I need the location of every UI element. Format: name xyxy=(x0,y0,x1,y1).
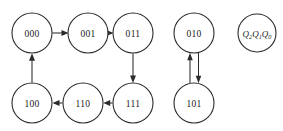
arrowhead-left-icon xyxy=(103,100,110,106)
nodes-layer: 000 001 011 100 110 111 xyxy=(12,13,276,123)
edge-110-to-100 xyxy=(53,100,63,106)
state-label: 101 xyxy=(186,99,201,109)
legend-node-state-encoding: Q2Q1Q0 xyxy=(238,14,276,52)
arrowhead-left-icon xyxy=(53,100,60,106)
legend-label: Q2Q1Q0 xyxy=(243,29,273,40)
state-diagram: 000 001 011 100 110 111 xyxy=(0,0,283,131)
state-label: 111 xyxy=(126,99,140,109)
arrowhead-up-icon xyxy=(187,53,193,61)
state-node-100[interactable]: 100 xyxy=(12,83,52,123)
arrowhead-down-icon xyxy=(196,76,202,84)
state-node-011[interactable]: 011 xyxy=(113,13,153,53)
edge-011-to-111 xyxy=(130,54,136,84)
state-node-111[interactable]: 111 xyxy=(113,83,153,123)
arrowhead-down-icon xyxy=(130,76,136,84)
edge-101-to-010 xyxy=(187,53,193,84)
state-label: 001 xyxy=(80,29,95,39)
edge-111-to-110 xyxy=(103,100,112,106)
edge-100-to-000 xyxy=(29,53,35,82)
arrowhead-right-icon xyxy=(62,30,69,36)
edge-010-to-101 xyxy=(196,53,202,84)
state-label: 110 xyxy=(76,99,91,109)
arrowhead-up-icon xyxy=(29,53,35,61)
state-label: 011 xyxy=(126,29,141,39)
state-node-101[interactable]: 101 xyxy=(174,83,214,123)
state-label: 000 xyxy=(24,29,39,39)
state-label: 010 xyxy=(186,29,201,39)
state-node-010[interactable]: 010 xyxy=(174,13,214,53)
state-label: 100 xyxy=(24,99,39,109)
state-node-000[interactable]: 000 xyxy=(12,13,52,53)
state-node-001[interactable]: 001 xyxy=(68,13,108,53)
state-node-110[interactable]: 110 xyxy=(63,83,103,123)
edge-000-to-001 xyxy=(53,30,69,36)
state-diagram-canvas: 000 001 011 100 110 111 xyxy=(0,0,283,131)
